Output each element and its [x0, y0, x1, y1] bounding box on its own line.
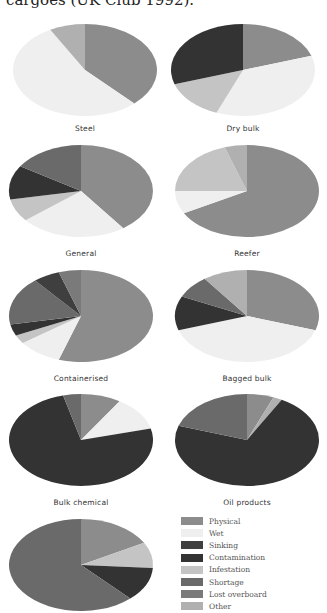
legend-label: Contamination [209, 553, 265, 562]
legend-swatch [181, 578, 203, 586]
pie-svg [172, 392, 322, 488]
pie-chart [6, 517, 166, 613]
legend-item-shortage: Shortage [181, 576, 267, 588]
pie-title: Containerised [1, 374, 161, 383]
legend-label: Sinking [209, 541, 238, 550]
legend-item-contamination: Contamination [181, 552, 267, 564]
legend-label: Lost overboard [209, 590, 267, 599]
pie-svg [6, 517, 156, 613]
legend-item-sinking: Sinking [181, 539, 267, 551]
pie-svg [172, 143, 322, 239]
legend-swatch [181, 529, 203, 537]
pie-title: Dry bulk [163, 124, 323, 133]
pie-chart: Containerised [6, 268, 166, 393]
pie-chart: Bulk chemical [6, 392, 166, 517]
pie-svg [6, 392, 156, 488]
pie-svg [168, 22, 318, 118]
legend-item-other: Other [181, 600, 267, 612]
pie-svg [172, 268, 322, 364]
pie-svg [6, 268, 156, 364]
legend-label: Physical [209, 517, 240, 526]
legend-label: Infestation [209, 565, 250, 574]
pie-title: Bagged bulk [167, 374, 327, 383]
pie-chart: Reefer [172, 143, 327, 268]
pie-chart: General [6, 143, 166, 268]
legend-swatch [181, 541, 203, 549]
chart-legend: Physical Wet Sinking Contamination Infes… [181, 515, 267, 613]
legend-item-wet: Wet [181, 527, 267, 539]
legend-swatch [181, 566, 203, 574]
legend-item-lost-overboard: Lost overboard [181, 588, 267, 600]
pie-chart: Oil products [172, 392, 327, 517]
legend-label: Wet [209, 529, 224, 538]
pie-title: Steel [5, 124, 165, 133]
pie-svg [10, 22, 160, 118]
legend-swatch [181, 590, 203, 598]
legend-item-infestation: Infestation [181, 564, 267, 576]
legend-label: Other [209, 602, 231, 611]
legend-swatch [181, 517, 203, 525]
pie-chart: Dry bulk [168, 22, 327, 147]
legend-label: Shortage [209, 578, 244, 587]
legend-swatch [181, 554, 203, 562]
pie-chart: Steel [10, 22, 170, 147]
pie-svg [6, 143, 156, 239]
legend-swatch [181, 602, 203, 610]
pie-title: Reefer [167, 249, 327, 258]
figure-caption: cargoes (UK Club 1992). [6, 0, 194, 9]
legend-item-physical: Physical [181, 515, 267, 527]
pie-title: Bulk chemical [1, 498, 161, 507]
pie-title: Oil products [167, 498, 327, 507]
pie-chart: Bagged bulk [172, 268, 327, 393]
pie-title: General [1, 249, 161, 258]
